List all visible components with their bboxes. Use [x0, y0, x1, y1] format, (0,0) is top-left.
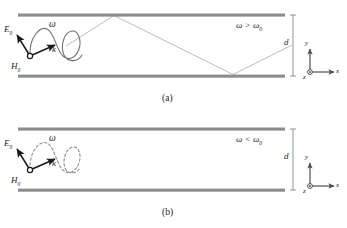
waveguide-figure: E0 H0 k ω ω > ω0 d y x z (a) [0, 0, 347, 228]
k-label-b: k [52, 159, 56, 168]
h0-label-b: H0 [11, 176, 20, 187]
panel-caption-a: (a) [162, 94, 173, 104]
field-vectors-a [17, 35, 55, 56]
e0-vector-b [17, 149, 30, 170]
dimension-label-d-b: d [284, 152, 289, 161]
source-origin-b [27, 167, 32, 172]
waveguide-wall-top-a [18, 14, 285, 17]
cutoff-condition-a: ω > ω0 [236, 21, 262, 32]
z-axis-label-a: z [303, 74, 306, 81]
x-axis-label-b: x [336, 182, 339, 189]
e0-label-a: E0 [4, 25, 12, 36]
coordinate-axes-a [310, 49, 334, 72]
coordinate-axes-b [310, 163, 334, 186]
panel-b: E0 H0 k ω ω < ω0 d y x z (b) [0, 114, 347, 228]
dimension-label-d-a: d [284, 38, 289, 47]
waveguide-wall-bottom-a [18, 75, 285, 78]
waveguide-wall-bottom-b [18, 189, 285, 192]
cutoff-condition-b: ω < ω0 [236, 135, 262, 146]
panel-a: E0 H0 k ω ω > ω0 d y x z (a) [0, 0, 347, 114]
field-vectors-b [17, 149, 55, 170]
z-axis-dot-b [309, 185, 311, 187]
y-axis-label-a: y [305, 40, 308, 47]
h0-label-a: H0 [11, 62, 20, 73]
x-axis-label-a: x [336, 68, 339, 75]
dimension-line-d-b [290, 129, 296, 190]
z-axis-label-b: z [303, 188, 306, 195]
source-origin-a [27, 53, 32, 58]
k-label-a: k [52, 45, 56, 54]
panel-b-graphics [0, 114, 347, 228]
e0-label-b: E0 [4, 139, 12, 150]
waveguide-wall-top-b [18, 128, 285, 131]
z-axis-dot-a [309, 71, 311, 73]
panel-a-graphics [0, 0, 347, 114]
omega-label-b: ω [49, 134, 56, 144]
panel-caption-b: (b) [162, 208, 173, 218]
e0-vector-a [17, 35, 30, 56]
y-axis-label-b: y [305, 154, 308, 161]
omega-label-a: ω [49, 20, 56, 30]
